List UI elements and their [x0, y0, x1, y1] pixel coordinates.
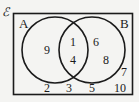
element-a-only-9: 9	[44, 44, 50, 56]
set-a-label: A	[19, 17, 28, 30]
element-outside-7: 7	[121, 66, 127, 78]
venn-diagram: ℰ A B 9 1 4 6 8 7 2 3 5 10	[0, 0, 139, 102]
element-outside-3: 3	[66, 82, 72, 94]
set-b-circle	[59, 17, 125, 83]
set-a-circle	[22, 17, 88, 83]
element-intersection-1: 1	[70, 36, 76, 48]
element-outside-5: 5	[89, 82, 95, 94]
element-b-only-8: 8	[103, 54, 109, 66]
element-intersection-4: 4	[70, 54, 76, 66]
universal-set-symbol: ℰ	[2, 6, 9, 18]
element-b-only-6: 6	[93, 36, 99, 48]
element-outside-2: 2	[44, 82, 50, 94]
element-outside-10: 10	[114, 82, 126, 94]
set-b-label: B	[120, 17, 129, 30]
